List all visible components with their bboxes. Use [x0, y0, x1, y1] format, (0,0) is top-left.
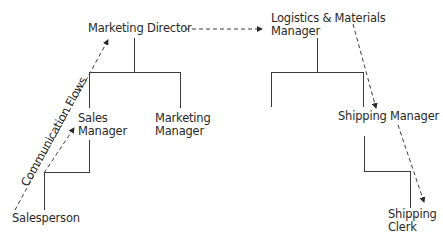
node-label-line2: Manager	[271, 25, 386, 38]
node-sales-manager: Sales Manager	[78, 112, 127, 138]
org-communication-diagram: Marketing Director Sales Manager Marketi…	[0, 0, 443, 246]
node-shipping-clerk: Shipping Clerk	[388, 208, 437, 234]
node-logistics-materials-manager: Logistics & Materials Manager	[271, 12, 386, 38]
node-marketing-director: Marketing Director	[88, 22, 192, 35]
node-label-line2: Manager	[78, 125, 127, 138]
node-label: Marketing Director	[88, 21, 192, 35]
node-label-line2: Clerk	[388, 221, 437, 234]
node-label: Salesperson	[12, 211, 80, 225]
node-label: Shipping Manager	[338, 109, 439, 123]
node-label-line2: Manager	[155, 125, 211, 138]
node-salesperson: Salesperson	[12, 212, 80, 225]
node-shipping-manager: Shipping Manager	[338, 110, 439, 123]
node-marketing-manager: Marketing Manager	[155, 112, 211, 138]
